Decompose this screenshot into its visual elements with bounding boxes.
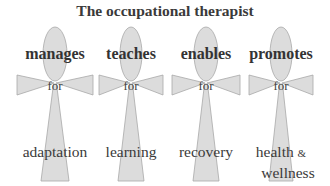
ampersand: & xyxy=(298,147,307,159)
outcome-label: health & wellness xyxy=(231,142,330,182)
outcome-health: health xyxy=(256,143,294,160)
outcome-wellness: wellness xyxy=(231,163,330,182)
connector-label: for xyxy=(241,78,321,94)
connector-label: for xyxy=(166,78,246,94)
verb-label: manages xyxy=(15,45,95,63)
connector-label: for xyxy=(15,78,95,94)
figure-promotes: promotes for health & wellness xyxy=(241,0,321,186)
verb-label: teaches xyxy=(91,45,171,63)
verb-label: enables xyxy=(166,45,246,63)
verb-label: promotes xyxy=(241,45,321,63)
connector-label: for xyxy=(91,78,171,94)
